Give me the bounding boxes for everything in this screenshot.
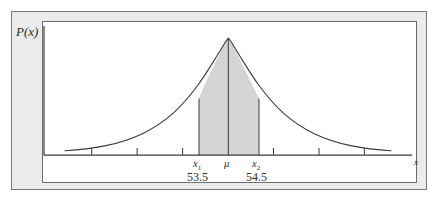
x-axis-label: x — [413, 157, 418, 167]
x2-value-label: 54.5 — [246, 170, 267, 184]
mu-annotation-group: μ — [223, 158, 229, 169]
x1-value-label: 53.5 — [187, 170, 208, 184]
mu-label: μ — [223, 158, 229, 169]
normal-distribution-figure: P(x) x x1 53.5 μ x2 54.5 — [0, 0, 440, 204]
y-axis-label: P(x) — [15, 24, 38, 39]
distribution-chart-svg: P(x) x x1 53.5 μ x2 54.5 — [0, 0, 440, 204]
